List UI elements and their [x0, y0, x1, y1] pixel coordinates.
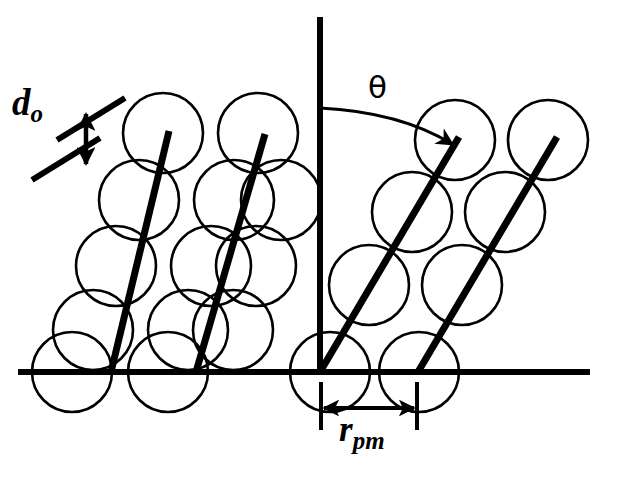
label-rpm-base: r: [339, 410, 353, 449]
label-projected-spacing: rpm: [339, 412, 385, 453]
label-angle-theta: θ: [368, 72, 387, 103]
label-d0-base: d: [12, 82, 31, 123]
right-cluster-circles: [290, 100, 588, 412]
theta-arc: [320, 108, 452, 144]
d0-guide-line-lower: [32, 138, 100, 180]
figure-canvas: do θ rpm: [0, 0, 624, 479]
left-cluster-circles: [32, 93, 321, 412]
sphere: [99, 160, 179, 240]
label-d0-subscript: o: [31, 100, 44, 127]
sphere: [194, 160, 274, 240]
label-rpm-subscript: pm: [353, 427, 385, 454]
label-interplanar-spacing: do: [12, 84, 43, 126]
sphere: [508, 100, 588, 180]
lattice-diagram-svg: [0, 0, 624, 479]
sphere: [171, 226, 251, 306]
d0-guide-line-upper: [57, 98, 125, 140]
